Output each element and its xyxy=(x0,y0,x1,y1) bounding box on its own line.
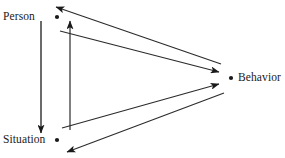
node-label-situation: Situation xyxy=(3,134,45,146)
edge-person-to-behavior xyxy=(60,31,219,72)
node-dot-situation xyxy=(55,138,59,142)
edge-behavior-to-situation xyxy=(67,93,224,152)
reciprocal-causation-diagram: Person Situation Behavior xyxy=(0,0,285,158)
node-label-person: Person xyxy=(3,11,35,23)
node-dot-person xyxy=(55,15,59,19)
node-label-behavior: Behavior xyxy=(238,72,281,84)
node-dot-behavior xyxy=(229,76,233,80)
edges-group xyxy=(41,7,224,152)
edge-situation-to-behavior xyxy=(62,84,219,128)
edge-behavior-to-person xyxy=(56,7,221,64)
